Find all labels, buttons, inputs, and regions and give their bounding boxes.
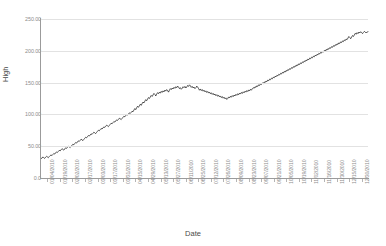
x-tick-label: 04/29/2010: [150, 160, 156, 184]
x-tick-label: 04/15/2010: [137, 160, 143, 184]
x-tick-label: 01/19/2010: [62, 160, 68, 184]
x-tick-mark: [274, 179, 275, 182]
x-axis-tick-labels: 01/04/201001/19/201002/02/201002/17/2010…: [0, 0, 386, 246]
x-tick-label: 08/23/2010: [251, 160, 257, 184]
x-tick-mark: [173, 179, 174, 182]
chart-container: High 0.050.00100.00150.00200.00250.00 01…: [0, 0, 386, 246]
x-tick-label: 07/12/2010: [213, 160, 219, 184]
x-tick-label: 10/19/2010: [301, 160, 307, 184]
x-tick-label: 03/31/2010: [125, 160, 131, 184]
x-tick-mark: [161, 179, 162, 182]
x-tick-mark: [299, 179, 300, 182]
x-tick-mark: [236, 179, 237, 182]
x-tick-mark: [60, 179, 61, 182]
x-tick-label: 02/02/2010: [74, 160, 80, 184]
x-tick-label: 06/11/2010: [188, 160, 194, 184]
x-tick-mark: [249, 179, 250, 182]
x-tick-label: 11/02/2010: [313, 160, 319, 184]
x-tick-mark: [123, 179, 124, 182]
x-tick-mark: [362, 179, 363, 182]
x-tick-label: 05/13/2010: [163, 160, 169, 184]
x-tick-mark: [85, 179, 86, 182]
x-tick-mark: [98, 179, 99, 182]
x-tick-label: 12/15/2010: [351, 160, 357, 184]
x-tick-label: 02/17/2010: [87, 160, 93, 184]
x-tick-label: 03/03/2010: [100, 160, 106, 184]
x-tick-label: 08/09/2010: [238, 160, 244, 184]
x-tick-label: 10/05/2010: [288, 160, 294, 184]
x-tick-label: 11/16/2010: [326, 160, 332, 184]
x-tick-mark: [337, 179, 338, 182]
x-axis-title: Date: [0, 229, 386, 238]
x-tick-label: 01/04/2010: [49, 160, 55, 184]
x-tick-mark: [261, 179, 262, 182]
x-tick-label: 05/27/2010: [175, 160, 181, 184]
x-tick-mark: [186, 179, 187, 182]
x-tick-label: 12/30/2010: [364, 160, 370, 184]
x-tick-label: 09/21/2010: [276, 160, 282, 184]
x-tick-mark: [349, 179, 350, 182]
x-tick-mark: [324, 179, 325, 182]
x-tick-label: 11/30/2010: [339, 160, 345, 184]
x-tick-label: 07/26/2010: [225, 160, 231, 184]
x-tick-mark: [148, 179, 149, 182]
x-tick-label: 06/25/2010: [200, 160, 206, 184]
x-tick-mark: [211, 179, 212, 182]
x-tick-label: 03/17/2010: [112, 160, 118, 184]
x-tick-label: 09/07/2010: [263, 160, 269, 184]
